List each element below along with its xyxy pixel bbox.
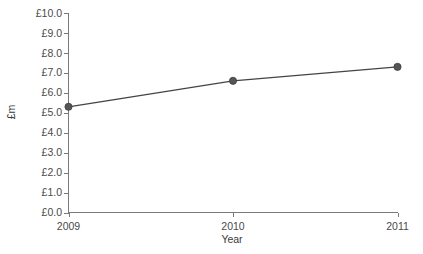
chart-background bbox=[0, 0, 423, 254]
data-point-marker bbox=[229, 77, 236, 84]
y-axis-tick-label: £3.0 bbox=[42, 146, 63, 158]
y-axis-tick-label: £10.0 bbox=[36, 7, 62, 19]
chart-canvas: £10.0£9.0£8.0£7.0£6.0£5.0£4.0£3.0£2.0£1.… bbox=[0, 0, 423, 254]
x-axis-title: Year bbox=[221, 233, 243, 245]
data-point-marker bbox=[65, 103, 72, 110]
y-axis-tick-label: £2.0 bbox=[42, 166, 63, 178]
x-axis-tick-label: 2009 bbox=[57, 220, 81, 232]
y-axis-tick-label: £5.0 bbox=[42, 106, 63, 118]
x-axis-tick-label: 2011 bbox=[386, 220, 409, 232]
y-axis-tick-label: £9.0 bbox=[42, 27, 63, 39]
y-axis-tick-label: £4.0 bbox=[42, 126, 63, 138]
data-point-marker bbox=[394, 63, 401, 70]
line-chart: £10.0£9.0£8.0£7.0£6.0£5.0£4.0£3.0£2.0£1.… bbox=[0, 0, 423, 254]
x-axis-tick-label: 2010 bbox=[221, 220, 245, 232]
y-axis-tick-label: £7.0 bbox=[42, 66, 63, 78]
y-axis-title: £m bbox=[5, 104, 17, 119]
y-axis-tick-label: £0.0 bbox=[42, 206, 63, 218]
y-axis-tick-label: £8.0 bbox=[42, 47, 63, 59]
y-axis-tick-label: £1.0 bbox=[42, 186, 63, 198]
y-axis-tick-label: £6.0 bbox=[42, 86, 63, 98]
